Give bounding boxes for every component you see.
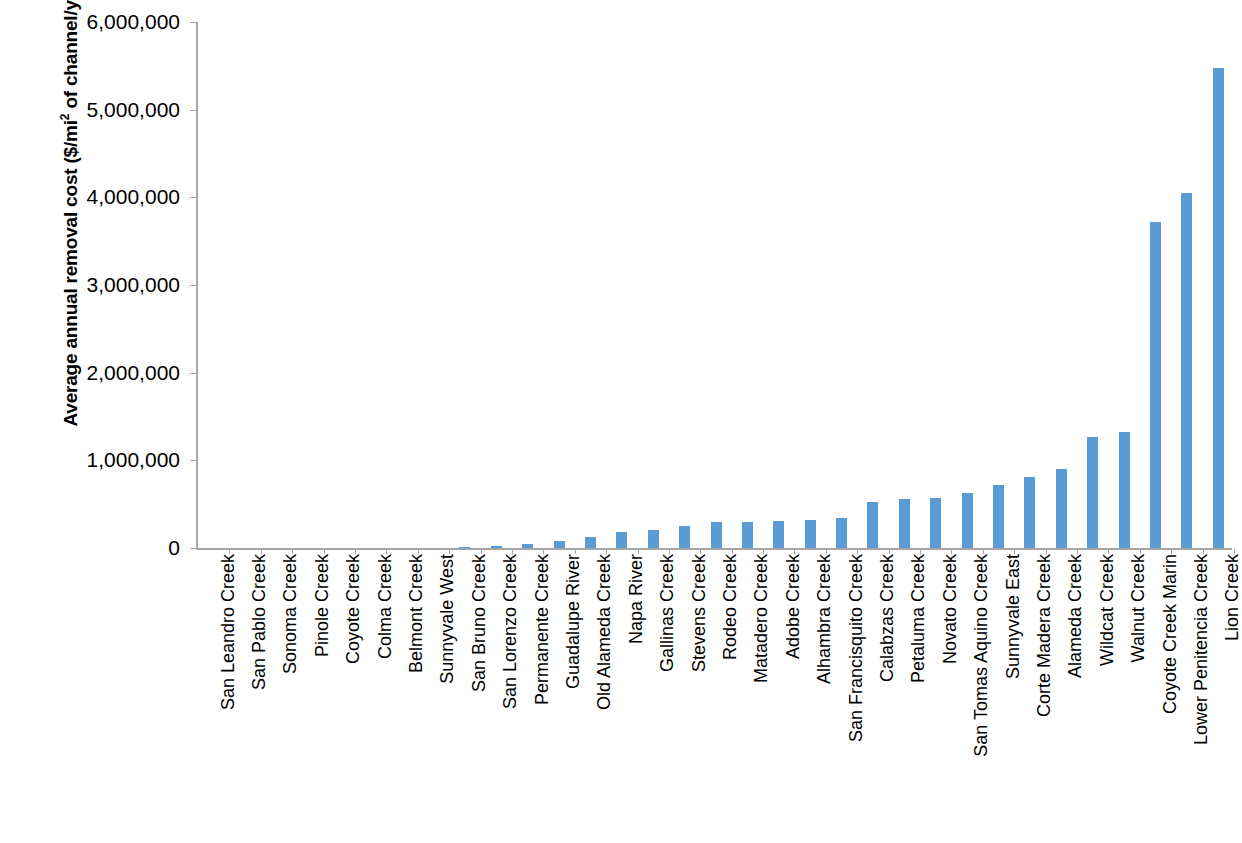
y-axis-tick-mark — [190, 22, 196, 23]
x-axis-category-label: Alhambra Creek — [815, 554, 833, 684]
bar — [836, 518, 847, 548]
bar — [993, 485, 1004, 548]
bar — [616, 532, 627, 548]
x-axis-category-label: Wildcat Creek — [1098, 554, 1116, 666]
x-axis-category-label: Coyote Creek — [344, 554, 362, 664]
y-axis-tick-label: 6,000,000 — [42, 11, 180, 32]
x-axis-category-label: Lower Penitencia Creek — [1192, 554, 1210, 745]
x-axis-category-label: Gallinas Creek — [658, 554, 676, 672]
bar — [1024, 477, 1035, 548]
bar — [1056, 469, 1067, 548]
x-axis-category-label: Novato Creek — [941, 554, 959, 664]
x-axis-category-label: Old Alameda Creek — [595, 554, 613, 710]
bar — [1087, 437, 1098, 548]
x-axis-category-label: Belmont Creek — [407, 554, 425, 673]
x-axis-category-label: Petaluma Creek — [909, 554, 927, 683]
bar — [930, 498, 941, 548]
bar — [867, 502, 878, 548]
bars-layer — [198, 22, 1232, 548]
x-axis-category-label: Permanente Creek — [533, 554, 551, 705]
bar — [1181, 193, 1192, 548]
x-axis-category-label: San Leandro Creek — [219, 554, 237, 710]
x-axis-category-label: Corte Madera Creek — [1035, 554, 1053, 717]
x-axis-category-label: Adobe Creek — [784, 554, 802, 659]
bar — [962, 493, 973, 548]
y-axis-tick-label: 2,000,000 — [42, 362, 180, 383]
bar — [1119, 432, 1130, 548]
x-axis-category-label: San Bruno Creek — [470, 554, 488, 692]
bar — [711, 522, 722, 548]
x-axis-category-labels: San Leandro CreekSan Pablo CreekSonoma C… — [196, 554, 1232, 843]
y-axis-tick-mark — [190, 373, 196, 374]
x-axis-category-label: Colma Creek — [376, 554, 394, 659]
bar — [554, 541, 565, 548]
bar — [899, 499, 910, 548]
x-axis-category-label: Napa River — [627, 554, 645, 644]
x-axis-category-label: Sonoma Creek — [281, 554, 299, 674]
bar — [805, 520, 816, 548]
plot-area — [196, 22, 1232, 548]
x-axis-category-label: San Pablo Creek — [250, 554, 268, 690]
y-axis-tick-mark — [190, 548, 196, 549]
x-axis-category-label: Matadero Creek — [752, 554, 770, 683]
bar — [773, 521, 784, 548]
bar — [522, 544, 533, 548]
y-axis-tick-labels: 01,000,0002,000,0003,000,0004,000,0005,0… — [42, 0, 180, 560]
y-axis-tick-label: 3,000,000 — [42, 274, 180, 295]
bar — [585, 537, 596, 548]
x-axis-category-label: Lion Creek — [1223, 554, 1241, 641]
y-axis-tick-label: 0 — [42, 537, 180, 558]
x-axis-category-label: Sunnyvale East — [1004, 554, 1022, 679]
y-axis-tick-mark — [190, 285, 196, 286]
bar — [491, 546, 502, 548]
x-axis-category-label: Coyote Creek Marin — [1161, 554, 1179, 714]
y-axis-tick-mark — [190, 110, 196, 111]
x-axis-category-label: Sunnyvale West — [438, 554, 456, 684]
x-axis-category-label: Alameda Creek — [1066, 554, 1084, 678]
x-axis-category-label: Pinole Creek — [313, 554, 331, 657]
x-axis-category-label: Walnut Creek — [1129, 554, 1147, 662]
y-axis-tick-mark — [190, 460, 196, 461]
x-axis-category-label: Stevens Creek — [690, 554, 708, 672]
y-axis-tick-mark — [190, 197, 196, 198]
y-axis-tick-label: 4,000,000 — [42, 186, 180, 207]
x-axis-category-label: Guadalupe River — [564, 554, 582, 689]
bar — [1213, 68, 1224, 548]
bar — [1150, 222, 1161, 548]
bar — [648, 530, 659, 548]
x-axis-category-label: Rodeo Creek — [721, 554, 739, 660]
bar — [679, 526, 690, 548]
x-axis-category-label: San Francisquito Creek — [847, 554, 865, 742]
bar — [742, 522, 753, 548]
y-axis-tick-label: 1,000,000 — [42, 449, 180, 470]
y-axis-tick-label: 5,000,000 — [42, 99, 180, 120]
bar — [459, 547, 470, 548]
x-axis-category-label: Calabzas Creek — [878, 554, 896, 682]
x-axis-category-label: San Tomas Aquino Creek — [972, 554, 990, 757]
x-axis-category-label: San Lorenzo Creek — [501, 554, 519, 709]
